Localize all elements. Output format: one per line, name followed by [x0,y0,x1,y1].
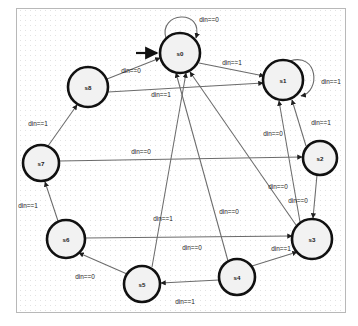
edge-label-s0-s0: din==0 [199,16,219,23]
state-node-s4[interactable]: s4 [219,259,255,295]
state-node-s6[interactable]: s6 [47,220,85,258]
diagram-canvas: s0 s1 s2 s3 s4 s5 [0,0,358,326]
state-node-s1[interactable]: s1 [263,60,303,100]
state-label-s8: s8 [85,84,92,91]
edge-label-s1-s2: din==1 [311,119,331,126]
state-label-s3: s3 [309,236,316,243]
edge-label-s4-s3: din==1 [271,245,291,252]
edge-label-s5-s0: din==0 [219,208,239,215]
state-node-s0[interactable]: s0 [160,33,200,73]
state-node-s7[interactable]: s7 [23,145,59,181]
state-node-s8[interactable]: s8 [68,67,108,107]
state-label-s5: s5 [139,281,146,288]
state-node-s2[interactable]: s2 [303,141,337,175]
edge-label-s7-s8: din==1 [28,120,48,127]
state-label-s0: s0 [177,50,184,57]
state-label-s4: s4 [234,274,241,281]
state-machine-diagram: s0 s1 s2 s3 s4 s5 [0,0,358,326]
edge-label-s5-s6: din==0 [75,273,95,280]
edge-label-s4-s0: din==1 [153,215,173,222]
edge-label-s8-s0: din==0 [121,67,141,74]
edge-label-s4-s5: din==1 [175,298,195,305]
state-node-s3[interactable]: s3 [292,219,332,259]
state-node-s5[interactable]: s5 [124,266,160,302]
state-label-s7: s7 [38,160,45,167]
edge-label-s8-s1: din==1 [151,91,171,98]
state-label-s2: s2 [317,155,324,162]
edge-label-s6-s7: din==1 [18,202,38,209]
edge-label-s3-s0: din==0 [268,183,288,190]
edge-label-s7-s2: din==0 [131,148,151,155]
state-label-s1: s1 [280,77,287,84]
state-label-s6: s6 [63,236,70,243]
edge-label-s2-s3: din==0 [288,197,308,204]
edge-label-s6-s3: din==0 [182,244,202,251]
edge-label-s0-s1: din==1 [222,59,242,66]
edge-label-s3-s1: din==0 [263,130,283,137]
edge-label-s1-s1: din==1 [321,78,341,85]
